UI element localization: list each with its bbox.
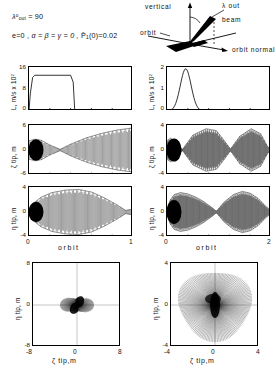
ytick-L-left-bot: 0	[12, 104, 26, 111]
xtick-phase-right-max: 4	[256, 348, 260, 355]
ytick-phase-left-top: 8	[16, 259, 30, 266]
plot-svg-eta-left	[29, 187, 132, 236]
xtick-phase-right-mid: 0	[211, 348, 215, 355]
panel-eta-left: η tip, m 4 0 -4 0 1 orbit	[0, 182, 138, 254]
plot-svg-zeta-left	[29, 125, 132, 174]
ytick-zeta-left-bot: -6	[8, 169, 26, 176]
xlabel-phase-right: ζ tip,m	[190, 357, 214, 364]
ytick-eta-right-mid: 0	[150, 207, 164, 214]
xtick-phase-left-min: -8	[26, 348, 32, 355]
plot-svg-L-left	[29, 67, 132, 110]
panel-zeta-left: ζ tip, m 6 0 -6	[0, 120, 138, 182]
panel-L-right: L, m/s x 102 2 1 0	[138, 58, 276, 120]
ytick-phase-left-bot: -8	[12, 341, 30, 348]
p-value: (0)=0.02	[89, 31, 118, 40]
panel-zeta-right: ζ tip, m 4 0 -4	[138, 120, 276, 182]
xtick-eta-left-start: 0	[26, 238, 30, 245]
condition-parameters: e=0 , α = β = γ = 0 , P̄1(0)=0.02	[12, 30, 137, 44]
plot-svg-zeta-right	[167, 125, 270, 174]
eccentricity-term: e=0 ,	[12, 31, 29, 40]
plot-area-eta-left	[28, 186, 132, 236]
panel-phase-right: η tip, m 4 0 -4 -4 0 4 ζ tip,m	[138, 258, 276, 370]
conditions-block: λoout = 90 e=0 , α = β = γ = 0 , P̄1(0)=…	[12, 10, 137, 44]
panel-eta-right: η tip, m 4 0 -4 0 2 orbit	[138, 182, 276, 254]
angles-term: α = β = γ = 0 ,	[31, 31, 78, 40]
ytick-phase-left-mid: 0	[16, 300, 30, 307]
ytick-eta-left-bot: -4	[8, 231, 26, 238]
ytick-L-left-top: 16	[12, 63, 26, 70]
figure-header: λoout = 90 e=0 , α = β = γ = 0 , P̄1(0)=…	[0, 0, 276, 58]
xtick-eta-right-end: 2	[267, 238, 271, 245]
ytick-zeta-left-top: 6	[12, 121, 26, 128]
xlabel-phase-left: ζ tip,m	[52, 357, 76, 364]
ytick-eta-right-top: 4	[150, 183, 164, 190]
xtick-phase-right-min: -4	[164, 348, 170, 355]
plot-area-zeta-right	[166, 124, 270, 174]
xtick-phase-left-max: 8	[118, 348, 122, 355]
ytick-zeta-right-mid: 0	[150, 145, 164, 152]
plot-svg-phase-left	[33, 263, 120, 346]
ytick-zeta-right-bot: -4	[146, 169, 164, 176]
plot-area-zeta-left	[28, 124, 132, 174]
ytick-L-right-top: 2	[150, 63, 164, 70]
ytick-eta-left-top: 4	[12, 183, 26, 190]
schematic-label-beam: beam	[222, 16, 241, 23]
plot-area-L-right	[166, 66, 270, 110]
schematic-diagram: vertical λ out beam orbit orbit normal	[140, 0, 276, 58]
ytick-phase-right-mid: 0	[154, 300, 168, 307]
schematic-label-orbit: orbit	[140, 29, 156, 36]
schematic-label-lambda-out: λ out	[222, 2, 240, 9]
ytick-L-left-mid: 8	[12, 84, 26, 91]
schematic-label-orbit-normal: orbit normal	[232, 46, 275, 53]
xtick-eta-left-end: 1	[129, 238, 133, 245]
plot-svg-eta-right	[167, 187, 270, 236]
plot-area-phase-left	[32, 262, 120, 346]
ytick-phase-right-bot: -4	[150, 341, 168, 348]
ytick-L-right-mid: 1	[150, 84, 164, 91]
ytick-phase-right-top: 4	[154, 259, 168, 266]
condition-lambda-out: λoout = 90	[12, 10, 137, 25]
plot-area-L-left	[28, 66, 132, 110]
lambda-value: = 90	[28, 12, 43, 21]
ytick-zeta-left-mid: 0	[12, 145, 26, 152]
xtick-phase-left-mid: 0	[73, 348, 77, 355]
plot-area-phase-right	[170, 262, 258, 346]
ytick-eta-left-mid: 0	[12, 207, 26, 214]
ytick-zeta-right-top: 4	[150, 121, 164, 128]
figure-root: λoout = 90 e=0 , α = β = γ = 0 , P̄1(0)=…	[0, 0, 276, 370]
plot-svg-phase-right	[171, 263, 258, 346]
xlabel-eta-right: orbit	[196, 244, 218, 251]
lambda-subscript: out	[19, 16, 26, 21]
panel-phase-left: η tip, m 8 0 -8 -8 0 8 ζ tip,m	[0, 258, 138, 370]
ytick-L-right-bot: 0	[150, 104, 164, 111]
plot-svg-L-right	[167, 67, 270, 110]
xlabel-eta-left: orbit	[58, 244, 80, 251]
xtick-eta-right-start: 0	[164, 238, 168, 245]
schematic-label-vertical: vertical	[145, 3, 172, 10]
ytick-eta-right-bot: -4	[146, 231, 164, 238]
panel-L-left: L, m/s x 102 16 8 0	[0, 58, 138, 120]
plot-area-eta-right	[166, 186, 270, 236]
